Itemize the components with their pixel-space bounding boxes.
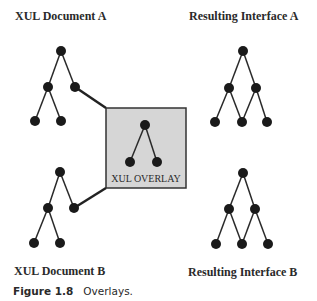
connector-a	[75, 87, 106, 108]
connector-b	[74, 188, 106, 208]
figure-text: Overlays.	[83, 285, 133, 297]
figure-caption: Figure 1.8Overlays.	[13, 285, 133, 297]
overlay-label: XUL OVERLAY	[106, 173, 186, 184]
figure-number: Figure 1.8	[13, 285, 73, 297]
node-icon	[56, 46, 66, 56]
overlay-diagram	[0, 0, 317, 301]
